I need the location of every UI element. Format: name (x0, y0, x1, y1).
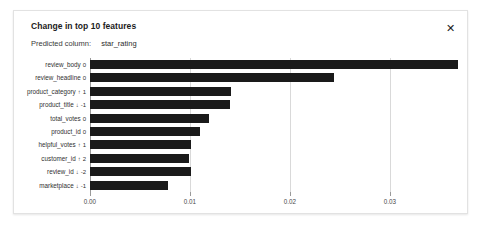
bar (90, 154, 189, 163)
arrow-down-icon: ↓ (76, 102, 79, 108)
bar (90, 73, 334, 82)
rank-delta: 1 (83, 142, 86, 148)
feature-name: product_title (39, 101, 73, 108)
x-axis-tick-label: 0.00 (84, 198, 96, 205)
rank-delta: 2 (83, 156, 86, 162)
rank-delta: 0 (83, 62, 86, 68)
feature-name: customer_id (41, 155, 75, 162)
bar-label: customer_id↑2 (41, 152, 86, 165)
bar-row: review_id↓-2 (90, 165, 400, 178)
bar-label: review_id↓-2 (47, 165, 86, 178)
bar-row: review_headline0 (90, 71, 400, 84)
bar-label: marketplace↓-1 (39, 179, 86, 192)
feature-name: helpful_votes (39, 141, 76, 148)
feature-name: product_category (27, 88, 76, 95)
x-axis-tick (390, 192, 391, 196)
arrow-up-icon: ↑ (78, 89, 81, 95)
bar (90, 60, 458, 69)
bar-row: product_category↑1 (90, 85, 400, 98)
x-axis-tick-label: 0.03 (384, 198, 396, 205)
bar-row: product_title↓-1 (90, 98, 400, 111)
rank-delta: 1 (83, 89, 86, 95)
bar-label: review_body0 (45, 58, 86, 71)
bar (90, 114, 209, 123)
bar-label: product_category↑1 (27, 85, 86, 98)
rank-delta: -1 (81, 102, 86, 108)
arrow-up-icon: ↑ (78, 156, 81, 162)
bar-label: total_votes0 (50, 112, 86, 125)
bar-row: customer_id↑2 (90, 152, 400, 165)
bar-row: marketplace↓-1 (90, 179, 400, 192)
bar-label: helpful_votes↑1 (39, 138, 86, 151)
x-axis-tick (90, 192, 91, 196)
rank-delta: -1 (81, 183, 86, 189)
bar (90, 87, 231, 96)
bar-label: review_headline0 (35, 71, 86, 84)
bar (90, 181, 168, 190)
bar-label: product_id0 (51, 125, 86, 138)
feature-importance-chart: 0.000.010.020.03review_body0review_headl… (14, 11, 469, 215)
bar-row: review_body0 (90, 58, 400, 71)
bar-row: total_votes0 (90, 112, 400, 125)
bar-row: helpful_votes↑1 (90, 138, 400, 151)
bar (90, 167, 191, 176)
feature-name: review_headline (35, 74, 81, 81)
rank-delta: 0 (83, 75, 86, 81)
bar (90, 127, 200, 136)
feature-name: review_body (45, 61, 80, 68)
arrow-down-icon: ↓ (76, 183, 79, 189)
feature-name: product_id (51, 128, 80, 135)
rank-delta: 0 (83, 116, 86, 122)
x-axis-tick (290, 192, 291, 196)
change-in-top-features-panel: Change in top 10 features ✕ Predicted co… (13, 10, 468, 214)
x-axis-tick-label: 0.01 (184, 198, 196, 205)
rank-delta: -2 (81, 169, 86, 175)
feature-name: total_votes (50, 115, 80, 122)
bar (90, 140, 191, 149)
x-axis-tick-label: 0.02 (284, 198, 296, 205)
bar (90, 100, 230, 109)
bar-row: product_id0 (90, 125, 400, 138)
rank-delta: 0 (83, 129, 86, 135)
arrow-down-icon: ↓ (76, 169, 79, 175)
x-axis-tick (190, 192, 191, 196)
plot-area: 0.000.010.020.03review_body0review_headl… (90, 58, 400, 192)
bar-label: product_title↓-1 (39, 98, 86, 111)
arrow-up-icon: ↑ (78, 142, 81, 148)
feature-name: review_id (47, 168, 74, 175)
feature-name: marketplace (39, 182, 73, 189)
